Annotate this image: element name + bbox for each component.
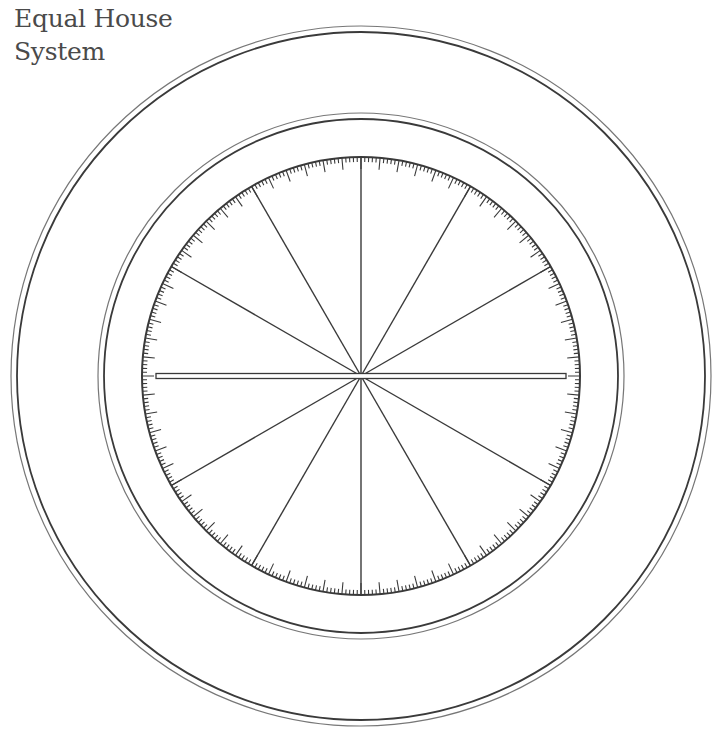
house-cusp-line [361, 376, 471, 566]
house-cusp-line [171, 376, 361, 486]
house-cusp-line [361, 186, 471, 376]
house-cusp-line [361, 376, 551, 486]
horizon-axis [156, 374, 566, 379]
house-cusp-line [252, 186, 362, 376]
house-cusp-line [252, 376, 362, 566]
ascendant-descendant-axis [156, 374, 566, 379]
house-wheel [0, 0, 717, 754]
house-cusp-line [171, 267, 361, 377]
house-cusp-line [361, 267, 551, 377]
